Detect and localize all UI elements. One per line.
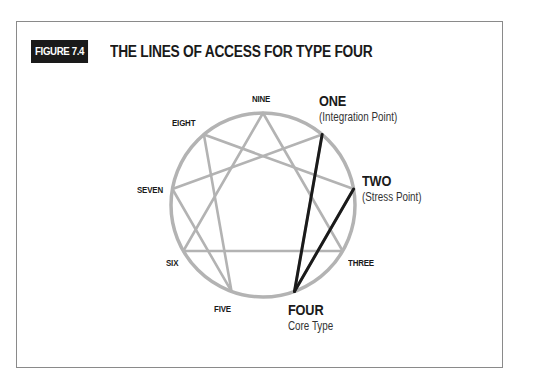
label-nine: NINE (252, 94, 270, 104)
label-two-stress-point: (Stress Point) (362, 190, 422, 204)
label-seven: SEVEN (137, 185, 163, 195)
lines-of-access (294, 135, 353, 292)
label-two: TWO (362, 173, 391, 189)
label-three: THREE (348, 258, 374, 268)
enneagram-circle (171, 113, 355, 297)
label-one-integration-point: (Integration Point) (319, 110, 397, 124)
label-five: FIVE (214, 304, 231, 314)
enneagram-diagram (0, 0, 550, 386)
label-one: ONE (319, 93, 346, 109)
label-four: FOUR (288, 302, 323, 318)
label-four-core-type: Core Type (288, 319, 333, 333)
label-six: SIX (166, 258, 178, 268)
label-eight: EIGHT (172, 118, 195, 128)
